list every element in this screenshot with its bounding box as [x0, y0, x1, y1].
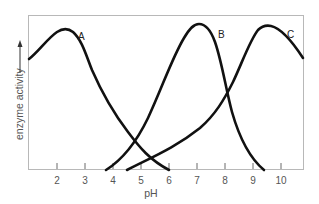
- tick-label-7: 7: [194, 175, 200, 186]
- x-axis-tick-labels: 2 3 4 5 6 7 8 9 10: [54, 175, 287, 186]
- tick-label-3: 3: [82, 175, 88, 186]
- y-axis-label: enzyme activity: [13, 67, 25, 140]
- curve-label-c: C: [287, 29, 294, 40]
- enzyme-activity-chart: 2 3 4 5 6 7 8 9 10 pH enzyme activity A …: [0, 0, 319, 204]
- arrow-up-icon: [18, 40, 23, 47]
- tick-label-9: 9: [250, 175, 256, 186]
- tick-label-8: 8: [222, 175, 228, 186]
- tick-label-4: 4: [110, 175, 116, 186]
- tick-label-2: 2: [54, 175, 60, 186]
- curve-a: [29, 29, 169, 170]
- curve-b: [106, 24, 264, 170]
- tick-label-6: 6: [166, 175, 172, 186]
- tick-label-10: 10: [275, 175, 287, 186]
- curve-label-a: A: [78, 31, 85, 42]
- tick-label-5: 5: [138, 175, 144, 186]
- x-axis-ticks: [57, 163, 281, 169]
- plot-frame: [29, 16, 304, 170]
- curve-c: [127, 26, 303, 170]
- x-axis-label: pH: [144, 187, 157, 199]
- curve-label-b: B: [218, 29, 225, 40]
